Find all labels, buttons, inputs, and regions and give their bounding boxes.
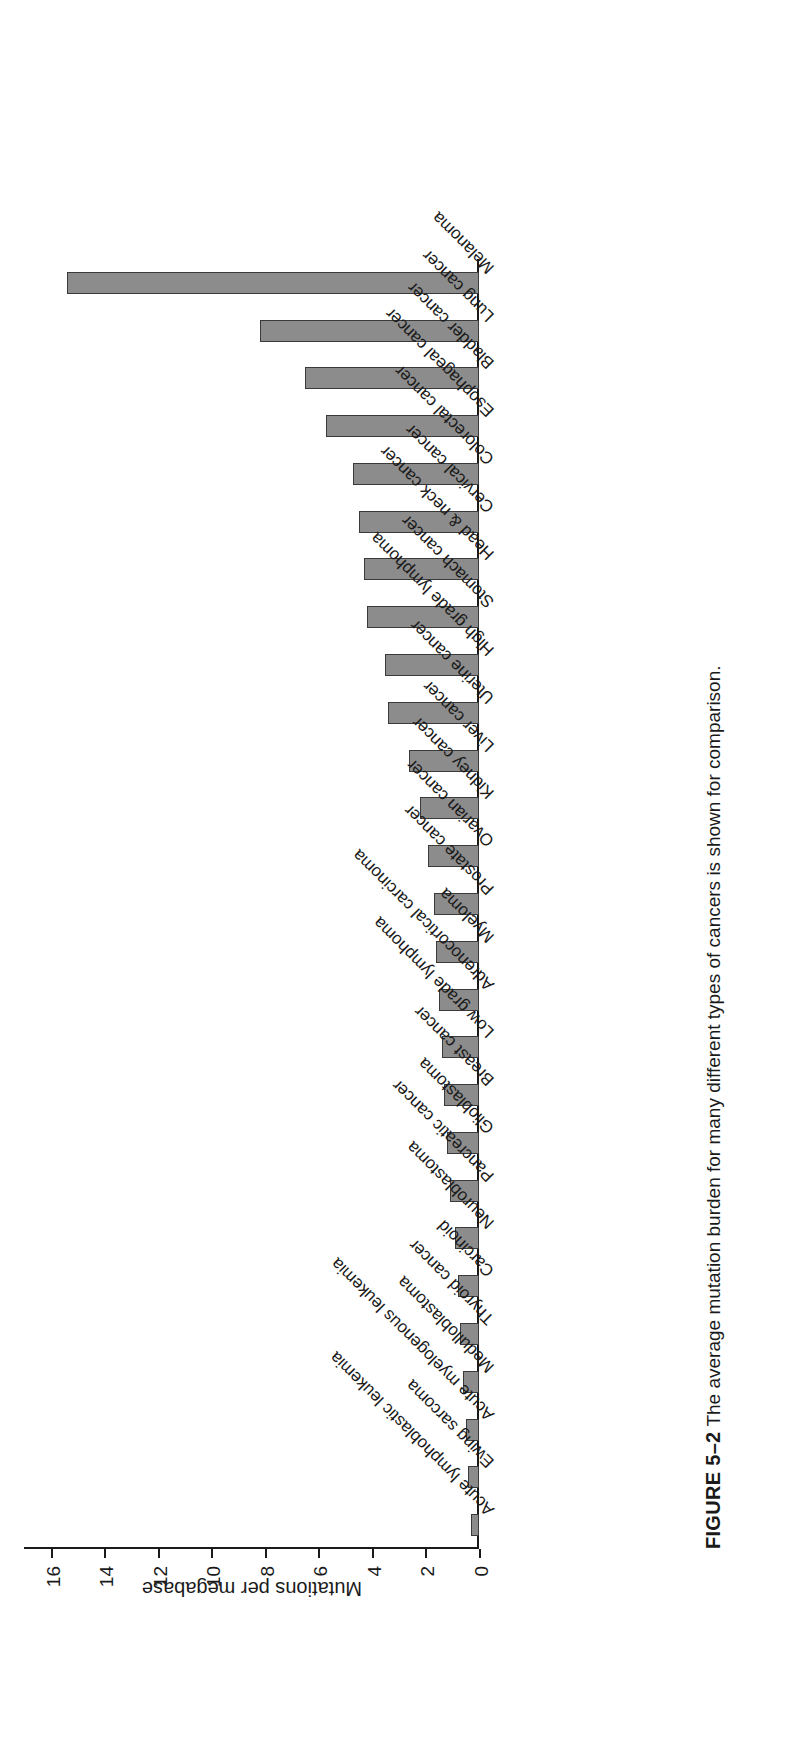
category-slot: Ewing sarcoma	[479, 1453, 779, 1501]
bar-slot	[24, 832, 479, 880]
bar-chart-figure: Mutations per megabase 0246810121416 Acu…	[0, 0, 785, 1749]
bar-slot	[24, 641, 479, 689]
category-slot: Prostate cancer	[479, 880, 779, 928]
category-slot: Neuroblastoma	[479, 1215, 779, 1263]
category-slot: Ovarian cancer	[479, 832, 779, 880]
category-slot: Cervical cancer	[479, 498, 779, 546]
category-slot: Head & neck cancer	[479, 546, 779, 594]
category-slot: Uterine cancer	[479, 689, 779, 737]
value-tick: 2	[425, 1549, 427, 1558]
value-tick-label: 16	[43, 1566, 62, 1587]
value-tick: 16	[51, 1549, 53, 1558]
figure-caption-text: The average mutation burden for many dif…	[703, 665, 724, 1426]
value-tick: 0	[479, 1549, 481, 1558]
value-tick: 8	[265, 1549, 267, 1558]
category-slot: Lung cancer	[479, 307, 779, 355]
bar-slot	[24, 1167, 479, 1215]
value-tick-label: 14	[97, 1566, 116, 1587]
category-slot: Adrenocortical carcinoma	[479, 976, 779, 1024]
value-tick-label: 0	[472, 1566, 491, 1577]
category-slot: Myeloma	[479, 928, 779, 976]
figure-page: Mutations per megabase 0246810121416 Acu…	[0, 0, 785, 1749]
category-slot: Glioblastoma	[479, 1119, 779, 1167]
category-slot: Carcinoid	[479, 1262, 779, 1310]
category-slot: Colorectal cancer	[479, 450, 779, 498]
category-slot: Bladder cancer	[479, 354, 779, 402]
category-slot: Thyroid cancer	[479, 1310, 779, 1358]
category-slot: Acute lymphoblastic leukemia	[479, 1501, 779, 1549]
category-axis-labels: Acute lymphoblastic leukemiaEwing sarcom…	[479, 259, 779, 1549]
bar-slot	[24, 1501, 479, 1549]
category-slot: Low grade lymphoma	[479, 1023, 779, 1071]
value-tick-label: 8	[257, 1566, 276, 1577]
category-slot: Liver cancer	[479, 737, 779, 785]
figure-caption: FIGURE 5–2 The average mutation burden f…	[700, 49, 727, 1549]
value-tick: 10	[211, 1549, 213, 1558]
category-slot: Melanoma	[479, 259, 779, 307]
category-slot: Kidney cancer	[479, 785, 779, 833]
category-slot: Breast cancer	[479, 1071, 779, 1119]
bar-slot	[24, 1023, 479, 1071]
value-tick: 12	[158, 1549, 160, 1558]
category-slot: Stomach cancer	[479, 593, 779, 641]
value-tick: 14	[104, 1549, 106, 1558]
figure-number: FIGURE 5–2	[702, 1432, 724, 1549]
category-slot: High grade lymphoma	[479, 641, 779, 689]
category-slot: Medulloblastoma	[479, 1358, 779, 1406]
rotated-figure-container: Mutations per megabase 0246810121416 Acu…	[0, 0, 785, 1749]
value-tick: 4	[372, 1549, 374, 1558]
value-tick-label: 4	[364, 1566, 383, 1577]
value-tick-label: 6	[311, 1566, 330, 1577]
category-slot: Acute myelogenous leukemia	[479, 1406, 779, 1454]
value-tick-label: 12	[150, 1566, 169, 1587]
value-axis-title: Mutations per megabase	[141, 1577, 361, 1600]
value-tick-label: 2	[418, 1566, 437, 1577]
value-tick-label: 10	[204, 1566, 223, 1587]
category-slot: Esophageal cancer	[479, 402, 779, 450]
bar	[471, 1514, 479, 1536]
value-tick: 6	[318, 1549, 320, 1558]
bar-slot	[24, 1453, 479, 1501]
category-slot: Pancreatic cancer	[479, 1167, 779, 1215]
